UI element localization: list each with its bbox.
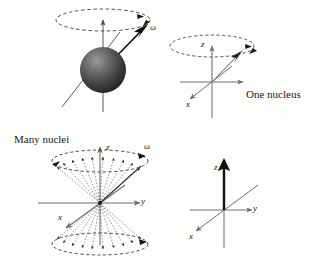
axis-label-z-bottom-right: z	[214, 163, 218, 172]
caption-many-nuclei: Many nuclei	[14, 134, 69, 145]
upper-rim-vector	[100, 166, 141, 203]
precession-direction-arrowhead-tr	[245, 44, 252, 49]
axis-label-y-bottom-right: y	[253, 204, 257, 213]
origin-dot-bl	[98, 201, 102, 205]
omega-label-top-left: ω	[150, 23, 156, 32]
panel-bottom-left-group	[38, 147, 148, 255]
panel-top-left-group	[56, 9, 150, 112]
caption-one-nucleus: One nucleus	[246, 89, 301, 100]
panel-top-right-group	[170, 35, 257, 118]
axis-label-x-bottom-left: x	[58, 213, 62, 222]
precession-figure: ω z x One nucleus Many nuclei z ω y x z …	[0, 0, 329, 257]
cone-generator-2-tr	[212, 46, 247, 82]
axis-label-z-bottom-left: z	[106, 143, 110, 152]
figure-canvas	[0, 0, 329, 257]
panel-bottom-right-group	[190, 160, 258, 248]
axis-x-line-br	[196, 185, 258, 231]
axis-label-z-top-right: z	[201, 40, 205, 49]
nucleus-sphere	[80, 47, 126, 93]
axis-x-line-bl	[66, 185, 125, 228]
omega-label-bottom-left: ω	[144, 142, 150, 151]
axis-label-y-bottom-left: y	[141, 197, 145, 206]
upper-cone-vectors	[57, 157, 140, 203]
axis-label-x-bottom-right: x	[189, 232, 193, 241]
precession-direction-arrowhead	[137, 14, 144, 19]
upper-rotation-arrowhead-2	[52, 161, 60, 167]
lower-rotation-arrowhead	[139, 239, 147, 245]
upper-rotation-arrowhead	[138, 153, 146, 159]
axis-label-x-top-right: x	[186, 100, 190, 109]
